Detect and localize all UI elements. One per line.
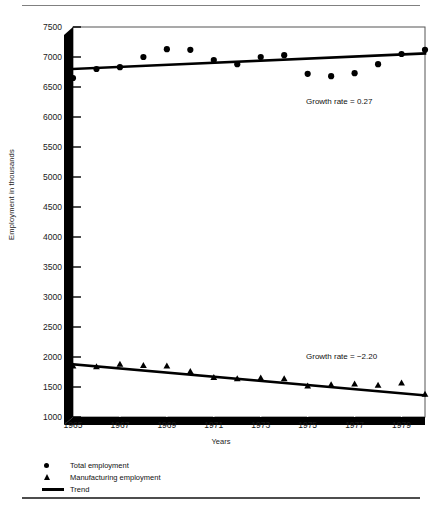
legend-item-total-employment: Total employment xyxy=(42,459,342,471)
figure-container: 1000150020002500300035004000450050005500… xyxy=(0,0,442,511)
x-tick-label: 1977 xyxy=(335,420,375,430)
line-marker-icon xyxy=(42,488,70,491)
x-tick-label: 1979 xyxy=(382,420,422,430)
y-tick-label: 5000 xyxy=(22,172,62,182)
plot-area: 1000150020002500300035004000450050005500… xyxy=(0,0,442,511)
y-tick-label: 6500 xyxy=(22,82,62,92)
circle-marker-icon xyxy=(42,463,70,468)
x-tick-label: 1967 xyxy=(100,420,140,430)
x-tick-label: 1969 xyxy=(147,420,187,430)
y-tick-label: 1500 xyxy=(22,382,62,392)
y-tick-label: 7000 xyxy=(22,52,62,62)
y-tick-label: 4000 xyxy=(22,232,62,242)
y-tick-label: 3500 xyxy=(22,262,62,272)
y-tick-label: 6000 xyxy=(22,112,62,122)
legend-item-manufacturing-employment: Manufacturing employment xyxy=(42,471,342,483)
y-tick-label: 4500 xyxy=(22,202,62,212)
x-tick-label: 1973 xyxy=(241,420,281,430)
y-axis-title: Employment in thousands xyxy=(7,110,16,280)
legend-label: Trend xyxy=(70,485,89,494)
y-tick-label: 2000 xyxy=(22,352,62,362)
legend-item-trend: Trend xyxy=(42,483,342,495)
annotation-growth-rate-manufacturing: Growth rate = −2.20 xyxy=(306,352,377,361)
annotation-growth-rate-total: Growth rate = 0.27 xyxy=(306,97,372,106)
triangle-marker-icon xyxy=(42,474,70,480)
chart-legend: Total employment Manufacturing employmen… xyxy=(42,459,342,495)
legend-label: Total employment xyxy=(70,461,129,470)
x-tick-label: 1975 xyxy=(288,420,328,430)
chart-canvas xyxy=(0,0,442,511)
x-tick-label: 1971 xyxy=(194,420,234,430)
y-tick-label: 3000 xyxy=(22,292,62,302)
x-tick-label: 1965 xyxy=(53,420,93,430)
x-axis-title: Years xyxy=(0,437,442,446)
legend-label: Manufacturing employment xyxy=(70,473,160,482)
y-tick-label: 5500 xyxy=(22,142,62,152)
y-axis-tick-labels: 1000150020002500300035004000450050005500… xyxy=(20,0,62,511)
y-tick-label: 2500 xyxy=(22,322,62,332)
y-tick-label: 7500 xyxy=(22,22,62,32)
